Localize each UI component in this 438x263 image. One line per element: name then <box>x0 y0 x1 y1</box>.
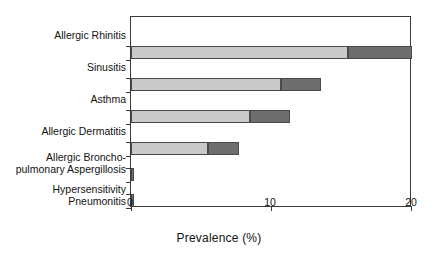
category-label-asthma: Asthma <box>8 94 126 106</box>
category-label-allergic-dermatitis: Allergic Dermatitis <box>8 126 126 138</box>
bar-segment-dark <box>131 168 134 181</box>
prevalence-bar-chart: Allergic Rhinitis Sinusitis Asthma Aller… <box>0 0 438 263</box>
bar-segment-light <box>131 142 208 155</box>
y-tick-0b <box>126 60 131 61</box>
category-label-allergic-bronchopulmonary-aspergillosis: Allergic Broncho- pulmonary Aspergillosi… <box>8 152 126 175</box>
category-label-allergic-rhinitis: Allergic Rhinitis <box>8 30 126 42</box>
bar-segment-dark <box>281 78 321 91</box>
x-tick-label-0: 0 <box>110 196 150 208</box>
category-label-hypersensitivity-pneumonitis: Hypersensitivity Pneumonitis <box>8 184 126 207</box>
y-tick-3b <box>126 156 131 157</box>
bar-segment-dark <box>250 110 290 123</box>
bar-segment-dark <box>348 46 412 59</box>
bar-segment-dark <box>208 142 239 155</box>
y-tick-4b <box>126 182 131 183</box>
bar-segment-light <box>131 110 250 123</box>
y-tick-2b <box>126 124 131 125</box>
bar-segment-light <box>131 46 348 59</box>
x-tick-label-10: 10 <box>250 196 290 208</box>
plot-area <box>130 16 411 207</box>
category-label-sinusitis: Sinusitis <box>8 62 126 74</box>
y-tick-1b <box>126 92 131 93</box>
category-label-column: Allergic Rhinitis Sinusitis Asthma Aller… <box>8 0 126 263</box>
x-tick-label-20: 20 <box>391 196 431 208</box>
x-axis-title: Prevalence (%) <box>0 231 438 245</box>
bar-segment-light <box>131 78 281 91</box>
